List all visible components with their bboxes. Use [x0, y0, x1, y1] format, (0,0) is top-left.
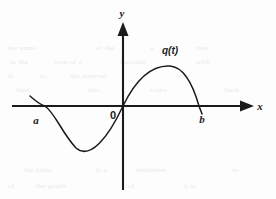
- left-root-label-a: a: [33, 114, 39, 126]
- curve-label-q-of-t: q(t): [162, 45, 179, 56]
- y-axis-label: y: [118, 7, 125, 19]
- right-root-label-b: b: [199, 113, 205, 125]
- x-axis-arrowhead: [240, 101, 254, 112]
- origin-label: 0: [110, 109, 116, 121]
- x-axis-label: x: [256, 100, 263, 112]
- figure-canvas: the sameof theaandin thecase of afunctio…: [0, 0, 276, 199]
- plot-svg: x y 0 a b q(t): [0, 0, 276, 199]
- y-axis-arrowhead: [118, 22, 129, 36]
